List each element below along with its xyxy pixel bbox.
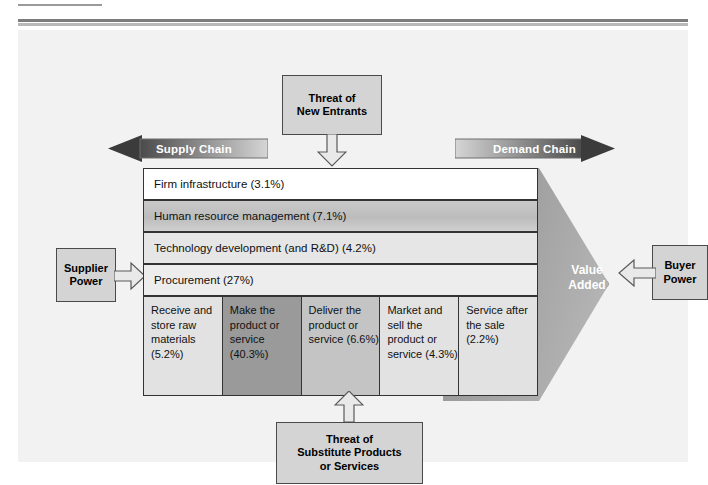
top-tick-rule — [18, 4, 102, 6]
force-box-buyer-power[interactable]: Buyer Power — [652, 245, 708, 300]
arrow-up-icon — [334, 391, 364, 423]
support-activity-label: Technology development (and R&D) (4.2%) — [144, 242, 376, 254]
support-activity-row[interactable]: Firm infrastructure (3.1%) — [143, 168, 538, 200]
primary-activity-cell[interactable]: Service after the sale (2.2%) — [459, 297, 537, 395]
supply-chain-arrow[interactable]: Supply Chain — [108, 135, 268, 162]
figure-panel: Threat of New Entrants Supply Chain — [18, 30, 688, 462]
supplier-power-line1: Supplier — [64, 262, 108, 275]
support-activity-row[interactable]: Procurement (27%) — [143, 264, 538, 296]
support-activity-row[interactable]: Technology development (and R&D) (4.2%) — [143, 232, 538, 264]
support-activity-label: Firm infrastructure (3.1%) — [144, 178, 284, 190]
arrow-down-icon — [317, 134, 347, 167]
substitutes-line1: Threat of — [297, 433, 402, 446]
support-activity-label: Human resource management (7.1%) — [144, 210, 346, 222]
header-rule-dark — [18, 19, 688, 22]
value-chain-block: Firm infrastructure (3.1%) Human resourc… — [143, 168, 609, 401]
buyer-power-line2: Power — [663, 273, 696, 286]
arrow-right-icon — [114, 262, 146, 290]
value-added-line2: Added — [552, 278, 622, 293]
new-entrants-line2: New Entrants — [297, 105, 367, 118]
primary-activity-cell[interactable]: Make the product or service (40.3%) — [223, 297, 302, 395]
primary-activity-cell[interactable]: Deliver the product or service (6.6%) — [302, 297, 381, 395]
substitutes-line2: Substitute Products — [297, 446, 402, 459]
primary-activity-cell[interactable]: Receive and store raw materials (5.2%) — [144, 297, 223, 395]
value-added-line1: Value — [552, 263, 622, 278]
primary-activity-cell[interactable]: Market and sell the product or service (… — [380, 297, 459, 395]
force-box-supplier-power[interactable]: Supplier Power — [56, 248, 116, 302]
header-rule-light — [18, 23, 688, 26]
supplier-power-line2: Power — [64, 275, 108, 288]
primary-activities-row: Receive and store raw materials (5.2%) M… — [143, 296, 538, 396]
support-activity-row[interactable]: Human resource management (7.1%) — [143, 200, 538, 232]
value-added-label: Value Added — [552, 263, 622, 293]
arrow-left-icon — [618, 259, 656, 287]
new-entrants-line1: Threat of — [297, 92, 367, 105]
demand-chain-arrow[interactable]: Demand Chain — [455, 135, 615, 162]
supply-chain-label: Supply Chain — [156, 135, 232, 162]
demand-chain-label: Demand Chain — [493, 135, 576, 162]
force-box-new-entrants[interactable]: Threat of New Entrants — [282, 75, 382, 135]
buyer-power-line1: Buyer — [663, 259, 696, 272]
substitutes-line3: or Services — [297, 460, 402, 473]
force-box-substitutes[interactable]: Threat of Substitute Products or Service… — [276, 422, 423, 484]
support-activity-label: Procurement (27%) — [144, 274, 254, 286]
